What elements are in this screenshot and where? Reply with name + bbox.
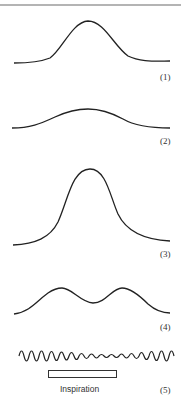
panel-label-3: (3)	[160, 249, 171, 259]
inspiration-label: Inspiration	[60, 384, 99, 394]
curve-4	[14, 288, 170, 314]
panel-label-1: (1)	[160, 72, 171, 82]
inspiration-bar	[49, 371, 117, 378]
panel-label-2: (2)	[160, 136, 171, 146]
curve-5	[19, 351, 174, 361]
curve-3	[13, 169, 170, 245]
waveform-figure	[0, 0, 181, 410]
panel-label-5: (5)	[160, 385, 171, 395]
curve-2	[12, 109, 170, 128]
panel-label-4: (4)	[160, 322, 171, 332]
curve-1	[14, 21, 170, 63]
